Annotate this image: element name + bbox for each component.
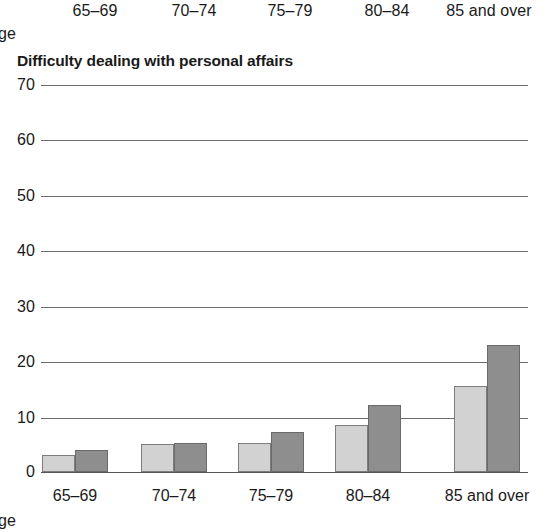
- bar-dark-75-79: [271, 432, 304, 472]
- y-tick-label-10: 10: [5, 410, 35, 426]
- bar-chart-plot: 70 60 50 40 30 20 10 0 65–69 70–74 75–79…: [0, 0, 545, 532]
- x-tick-label-75-79: 75–79: [234, 487, 308, 505]
- bar-light-80-84: [335, 425, 368, 472]
- y-tick-label-30: 30: [5, 299, 35, 315]
- x-tick-label-70-74: 70–74: [137, 487, 211, 505]
- axis-baseline-0: [41, 472, 528, 473]
- gridline-60: [41, 140, 528, 141]
- bar-light-85-and-over: [454, 386, 487, 472]
- bar-light-65-69: [42, 455, 75, 472]
- y-tick-label-60: 60: [5, 132, 35, 148]
- y-tick-label-0: 0: [5, 464, 35, 480]
- y-tick-label-70: 70: [5, 77, 35, 93]
- bar-light-75-79: [238, 443, 271, 472]
- gridline-50: [41, 196, 528, 197]
- bar-dark-80-84: [368, 405, 401, 472]
- gridline-30: [41, 307, 528, 308]
- y-tick-label-50: 50: [5, 188, 35, 204]
- x-tick-label-65-69: 65–69: [38, 487, 112, 505]
- y-tick-label-40: 40: [5, 243, 35, 259]
- gridline-20: [41, 362, 528, 363]
- bar-light-70-74: [141, 444, 174, 472]
- x-tick-label-80-84: 80–84: [331, 487, 405, 505]
- bar-dark-85-and-over: [487, 345, 520, 472]
- gridline-70: [41, 85, 528, 86]
- bar-dark-65-69: [75, 450, 108, 472]
- gridline-40: [41, 251, 528, 252]
- bottom-axis-caption-clipped: ge: [0, 512, 16, 530]
- bar-dark-70-74: [174, 443, 207, 472]
- x-tick-label-85-and-over: 85 and over: [434, 487, 540, 505]
- y-tick-label-20: 20: [5, 354, 35, 370]
